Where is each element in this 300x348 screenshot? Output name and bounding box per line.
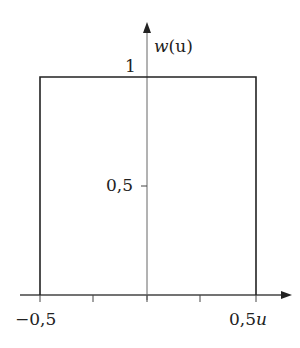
chart-container: w(u) 1 0,5 −0,5 0,5u	[0, 0, 300, 348]
chart-plot	[0, 0, 300, 348]
y-axis-arrow-icon	[143, 22, 151, 33]
y-axis-label: w(u)	[154, 38, 193, 55]
x-axis-label: u	[256, 309, 267, 329]
x-pos-value: 0,5	[229, 309, 256, 329]
rect-function-line	[40, 77, 256, 295]
y-tick-label-1: 1	[125, 58, 136, 75]
x-tick-label-neg: −0,5	[15, 311, 56, 328]
y-axis-func: w	[154, 36, 169, 56]
x-tick-label-pos: 0,5u	[229, 311, 267, 328]
y-axis-arg: (u)	[169, 36, 193, 56]
x-axis-arrow-icon	[281, 291, 292, 299]
y-tick-label-half: 0,5	[106, 177, 133, 194]
